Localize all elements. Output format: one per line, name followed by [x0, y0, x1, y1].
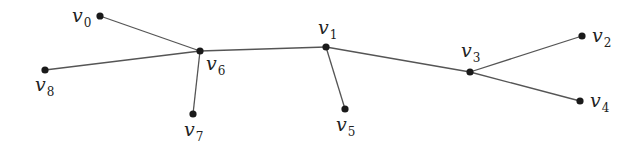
- edge-v1-v5: [326, 47, 345, 109]
- label-v3: v3: [461, 39, 480, 65]
- label-v1: v1: [318, 16, 337, 42]
- label-v2: v2: [592, 24, 611, 50]
- node-v2: [578, 32, 585, 39]
- label-v5: v5: [336, 113, 355, 139]
- labels-group: v0v1v2v3v4v5v6v7v8: [35, 4, 611, 144]
- edge-v3-v4: [470, 72, 580, 101]
- edge-v1-v3: [326, 47, 470, 72]
- edges-group: [45, 16, 582, 114]
- node-v1: [322, 43, 329, 50]
- label-v8: v8: [35, 73, 54, 99]
- label-v7: v7: [184, 118, 203, 144]
- edge-v7-v6: [193, 51, 200, 114]
- edge-v8-v6: [45, 51, 200, 70]
- node-v5: [341, 105, 348, 112]
- node-v6: [196, 47, 203, 54]
- edge-v6-v1: [200, 47, 326, 51]
- node-v7: [189, 110, 196, 117]
- label-v0: v0: [72, 4, 91, 30]
- node-v4: [576, 97, 583, 104]
- tree-diagram: v0v1v2v3v4v5v6v7v8: [0, 0, 638, 147]
- label-v4: v4: [590, 89, 610, 115]
- node-v3: [466, 68, 473, 75]
- edge-v3-v2: [470, 36, 582, 72]
- label-v6: v6: [206, 52, 225, 78]
- nodes-group: [41, 12, 585, 117]
- edge-v0-v6: [100, 16, 200, 51]
- node-v0: [96, 12, 103, 19]
